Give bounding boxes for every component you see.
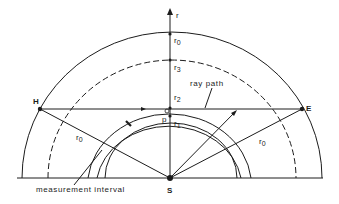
label-r0-left: r0 — [76, 134, 83, 143]
label-r2: r2 — [174, 94, 181, 103]
label-point-s: S — [167, 187, 172, 195]
tick-r0 — [168, 32, 171, 35]
tick-r1 — [168, 114, 171, 117]
ray-path-leader — [205, 88, 212, 108]
point-e — [300, 107, 304, 111]
measurement-interval-label: measurement interval — [36, 186, 125, 194]
outer-arc-r0 — [22, 32, 322, 178]
dashed-arc-r3 — [48, 60, 296, 178]
measurement-leader — [74, 150, 102, 185]
measurement-interval-bar — [126, 121, 131, 126]
ray-path-label: ray path — [190, 80, 224, 88]
point-s — [167, 175, 173, 181]
label-point-p: p — [162, 116, 166, 124]
label-point-h: H — [33, 98, 39, 106]
point-h — [38, 107, 42, 111]
diagram-canvas — [0, 0, 339, 204]
label-point-e: E — [306, 105, 311, 113]
label-r0-top: r0 — [174, 37, 181, 46]
line-s-to-h — [40, 109, 170, 178]
label-r3: r3 — [174, 64, 181, 73]
tick-r2 — [168, 106, 171, 109]
r-axis-label: r — [176, 12, 179, 20]
r-axis-arrowhead — [167, 8, 173, 15]
tick-r3 — [168, 58, 171, 61]
ray-arrowhead — [141, 107, 146, 111]
label-r0-right: r0 — [259, 138, 266, 147]
label-r1: r1 — [174, 120, 181, 129]
point-p-marker — [165, 109, 169, 113]
inner-arc-r2 — [105, 123, 237, 178]
